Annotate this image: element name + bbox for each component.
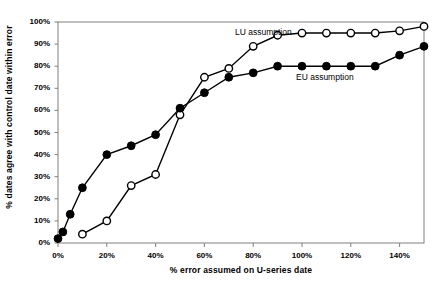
x-axis-tick-label: 0% (38, 251, 78, 260)
y-axis-tick-label: 10% (20, 216, 50, 225)
data-point-marker (59, 228, 67, 236)
data-point-marker (128, 182, 135, 189)
data-point-marker (420, 23, 427, 30)
data-point-marker (249, 69, 257, 77)
plot-frame (58, 22, 424, 243)
chart-figure: % dates agree with control date within e… (0, 0, 446, 285)
data-point-marker (323, 29, 330, 36)
data-point-marker (127, 142, 135, 150)
data-point-marker (250, 43, 257, 50)
plot-area (0, 0, 446, 285)
y-axis-tick-label: 60% (20, 105, 50, 114)
data-point-marker (225, 65, 232, 72)
data-point-marker (201, 89, 209, 97)
data-point-marker (79, 184, 87, 192)
y-axis-tick-label: 90% (20, 39, 50, 48)
y-axis-tick-label: 20% (20, 194, 50, 203)
data-point-marker (54, 235, 62, 243)
data-point-marker (103, 217, 110, 224)
data-point-marker (420, 42, 428, 50)
series-line (82, 26, 424, 234)
data-point-marker (298, 29, 305, 36)
x-axis-tick-label: 40% (136, 251, 176, 260)
data-point-marker (372, 29, 379, 36)
data-point-marker (298, 62, 306, 70)
y-axis-tick-label: 40% (20, 150, 50, 159)
data-point-marker (103, 151, 111, 159)
data-point-marker (176, 104, 184, 112)
x-axis-tick-label: 140% (380, 251, 420, 260)
x-axis-tick-label: 60% (184, 251, 224, 260)
y-axis-tick-label: 0% (20, 238, 50, 247)
y-axis-tick-label: 30% (20, 172, 50, 181)
x-axis-tick-label: 120% (331, 251, 371, 260)
data-point-marker (371, 62, 379, 70)
series-annotation-label: EU assumption (296, 72, 354, 82)
y-axis-tick-label: 50% (20, 128, 50, 137)
x-axis-tick-label: 100% (282, 251, 322, 260)
series-annotation-label: LU assumption (235, 27, 292, 37)
data-point-marker (66, 210, 74, 218)
data-point-marker (347, 29, 354, 36)
data-point-marker (201, 74, 208, 81)
y-axis-tick-label: 70% (20, 83, 50, 92)
x-axis-tick-label: 80% (233, 251, 273, 260)
data-point-marker (396, 27, 403, 34)
data-point-marker (274, 62, 282, 70)
series-line (58, 46, 424, 238)
x-axis-tick-label: 20% (87, 251, 127, 260)
y-axis-tick-label: 100% (20, 17, 50, 26)
y-axis-tick-label: 80% (20, 61, 50, 70)
data-point-marker (347, 62, 355, 70)
data-point-marker (152, 131, 160, 139)
data-point-marker (152, 171, 159, 178)
data-point-marker (396, 51, 404, 59)
data-point-marker (323, 62, 331, 70)
data-point-marker (79, 230, 86, 237)
data-point-marker (225, 73, 233, 81)
